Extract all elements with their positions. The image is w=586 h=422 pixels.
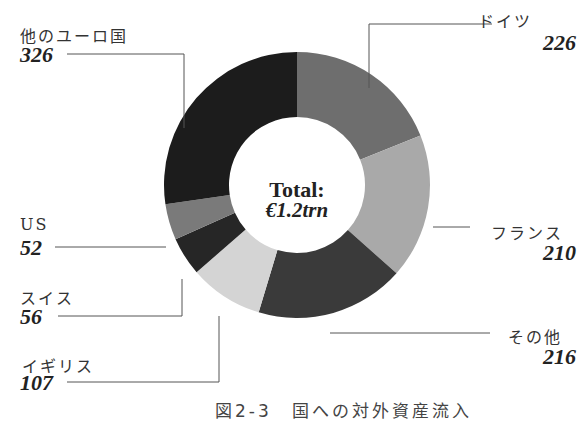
- leader-line-swiss: [58, 279, 182, 316]
- center-total: Total: €1.2trn: [232, 180, 362, 220]
- figure-caption: 図2-3 国への対外資産流入: [215, 397, 472, 422]
- label-euro-value: 326: [20, 42, 53, 68]
- label-us-value: 52: [20, 235, 42, 261]
- label-france-value: 210: [500, 240, 576, 266]
- label-us-name: US: [20, 215, 48, 234]
- leader-line-germany: [369, 24, 492, 88]
- label-germany-value: 226: [500, 30, 576, 56]
- label-uk-value: 107: [20, 370, 53, 396]
- label-germany-name: ドイツ: [478, 8, 532, 32]
- label-other-value: 216: [500, 344, 576, 370]
- center-total-value: €1.2trn: [232, 200, 362, 220]
- label-swiss-value: 56: [20, 304, 42, 330]
- center-total-label: Total:: [232, 180, 362, 200]
- leader-line-euro: [67, 54, 184, 128]
